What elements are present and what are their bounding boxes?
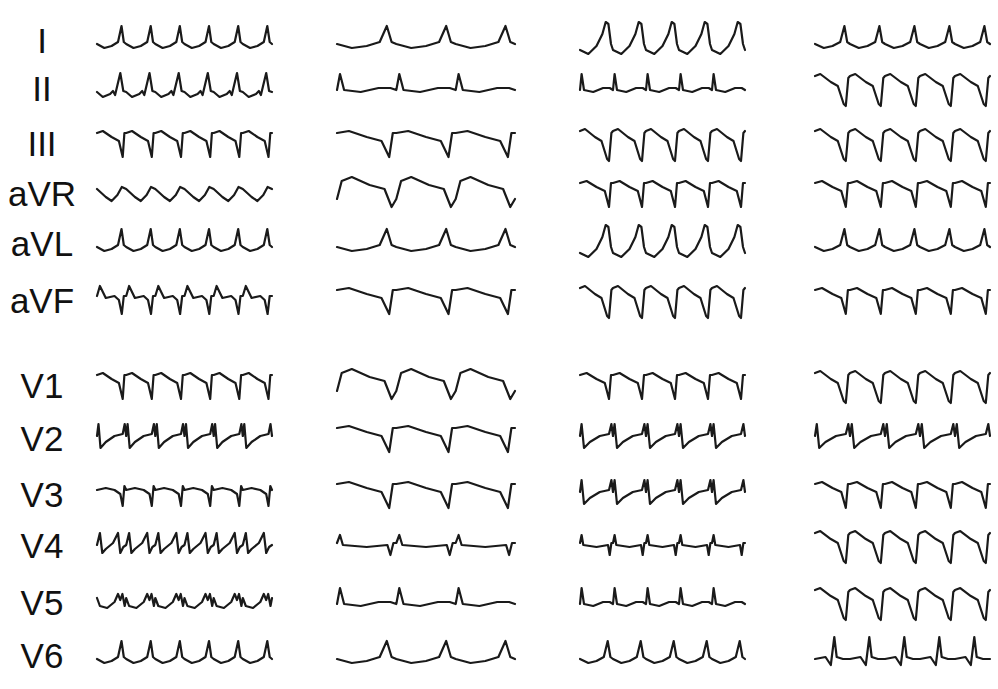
trace-V6-panel-1 xyxy=(97,641,272,663)
trace-V4-panel-3 xyxy=(580,535,745,555)
trace-V5-panel-3 xyxy=(580,588,745,606)
trace-III-panel-4 xyxy=(815,129,990,161)
trace-II-panel-4 xyxy=(815,74,990,106)
trace-aVL-panel-4 xyxy=(815,229,990,251)
trace-V4-panel-1 xyxy=(97,533,272,553)
trace-aVL-panel-1 xyxy=(97,229,272,251)
trace-aVR-panel-2 xyxy=(337,177,515,207)
trace-II-panel-1 xyxy=(97,73,272,97)
trace-aVR-panel-3 xyxy=(580,181,745,207)
trace-V4-panel-4 xyxy=(815,531,990,563)
trace-V3-panel-1 xyxy=(97,486,272,506)
trace-V5-panel-1 xyxy=(97,594,272,608)
trace-V3-panel-4 xyxy=(815,482,990,508)
panel-3 xyxy=(580,22,745,663)
trace-V2-panel-3 xyxy=(580,424,745,448)
trace-V1-panel-1 xyxy=(97,373,272,399)
trace-aVF-panel-1 xyxy=(97,286,272,314)
trace-V5-panel-2 xyxy=(337,588,515,606)
trace-III-panel-1 xyxy=(97,131,272,157)
trace-aVL-panel-3 xyxy=(580,225,745,257)
trace-aVF-panel-2 xyxy=(337,288,515,314)
trace-I-panel-3 xyxy=(580,22,745,54)
trace-V6-panel-3 xyxy=(580,641,745,663)
trace-II-panel-3 xyxy=(580,74,745,92)
panel-2 xyxy=(337,26,515,663)
panel-1 xyxy=(97,26,272,663)
trace-V6-panel-4 xyxy=(815,637,990,665)
trace-aVR-panel-1 xyxy=(97,187,272,201)
trace-V2-panel-2 xyxy=(337,426,515,452)
trace-I-panel-4 xyxy=(815,26,990,48)
trace-aVF-panel-3 xyxy=(580,286,745,318)
trace-V3-panel-3 xyxy=(580,480,745,504)
trace-V2-panel-4 xyxy=(815,424,990,448)
trace-V5-panel-4 xyxy=(815,588,990,620)
trace-V6-panel-2 xyxy=(337,641,515,663)
trace-aVF-panel-4 xyxy=(815,288,990,314)
panel-4 xyxy=(815,26,990,665)
trace-V2-panel-1 xyxy=(97,424,272,448)
trace-I-panel-2 xyxy=(337,26,515,48)
trace-V1-panel-3 xyxy=(580,373,745,399)
trace-V1-panel-4 xyxy=(815,371,990,403)
trace-aVR-panel-4 xyxy=(815,181,990,207)
trace-aVL-panel-2 xyxy=(337,229,515,251)
ecg-traces xyxy=(0,0,998,689)
trace-I-panel-1 xyxy=(97,26,272,48)
trace-V4-panel-2 xyxy=(337,535,515,555)
trace-V1-panel-2 xyxy=(337,369,515,399)
trace-III-panel-2 xyxy=(337,131,515,157)
trace-V3-panel-2 xyxy=(337,482,515,508)
trace-II-panel-2 xyxy=(337,74,515,92)
trace-III-panel-3 xyxy=(580,129,745,161)
